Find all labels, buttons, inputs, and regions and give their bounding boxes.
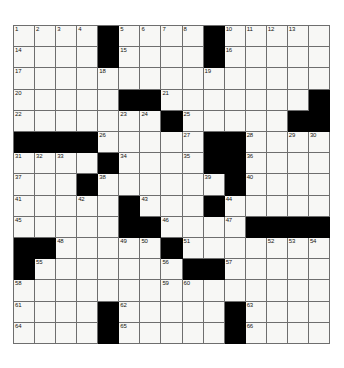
grid-cell[interactable] <box>309 26 330 47</box>
grid-cell[interactable] <box>119 259 140 280</box>
grid-cell[interactable] <box>56 68 77 89</box>
grid-cell[interactable]: 22 <box>14 111 35 132</box>
grid-cell[interactable] <box>288 174 309 195</box>
grid-cell[interactable] <box>35 68 56 89</box>
grid-cell[interactable] <box>309 259 330 280</box>
grid-cell[interactable] <box>35 217 56 238</box>
grid-cell[interactable] <box>204 90 225 111</box>
grid-cell[interactable] <box>204 302 225 323</box>
grid-cell[interactable]: 35 <box>183 153 204 174</box>
grid-cell[interactable] <box>225 280 246 301</box>
grid-cell[interactable] <box>77 302 98 323</box>
grid-cell[interactable] <box>56 47 77 68</box>
grid-cell[interactable] <box>225 111 246 132</box>
grid-cell[interactable] <box>246 90 267 111</box>
grid-cell[interactable] <box>267 68 288 89</box>
grid-cell[interactable] <box>204 217 225 238</box>
grid-cell[interactable] <box>77 153 98 174</box>
grid-cell[interactable]: 52 <box>267 238 288 259</box>
grid-cell[interactable] <box>119 68 140 89</box>
grid-cell[interactable] <box>140 47 161 68</box>
grid-cell[interactable] <box>77 238 98 259</box>
grid-cell[interactable] <box>98 90 119 111</box>
grid-cell[interactable] <box>267 323 288 344</box>
grid-cell[interactable] <box>119 280 140 301</box>
grid-cell[interactable] <box>183 302 204 323</box>
grid-cell[interactable] <box>267 302 288 323</box>
grid-cell[interactable]: 48 <box>56 238 77 259</box>
grid-cell[interactable]: 55 <box>35 259 56 280</box>
grid-cell[interactable]: 18 <box>98 68 119 89</box>
grid-cell[interactable] <box>161 153 182 174</box>
grid-cell[interactable] <box>56 90 77 111</box>
grid-cell[interactable] <box>246 259 267 280</box>
grid-cell[interactable] <box>56 302 77 323</box>
grid-cell[interactable] <box>140 153 161 174</box>
grid-cell[interactable] <box>267 132 288 153</box>
grid-cell[interactable] <box>77 90 98 111</box>
grid-cell[interactable]: 40 <box>246 174 267 195</box>
grid-cell[interactable] <box>246 238 267 259</box>
grid-cell[interactable] <box>35 47 56 68</box>
grid-cell[interactable] <box>161 47 182 68</box>
grid-cell[interactable] <box>98 111 119 132</box>
grid-cell[interactable]: 45 <box>14 217 35 238</box>
grid-cell[interactable] <box>98 259 119 280</box>
grid-cell[interactable] <box>309 302 330 323</box>
grid-cell[interactable] <box>288 259 309 280</box>
grid-cell[interactable] <box>267 196 288 217</box>
grid-cell[interactable] <box>246 280 267 301</box>
grid-cell[interactable]: 23 <box>119 111 140 132</box>
grid-cell[interactable] <box>35 302 56 323</box>
grid-cell[interactable]: 47 <box>225 217 246 238</box>
grid-cell[interactable]: 16 <box>225 47 246 68</box>
grid-cell[interactable] <box>56 196 77 217</box>
grid-cell[interactable]: 65 <box>119 323 140 344</box>
grid-cell[interactable] <box>183 47 204 68</box>
grid-cell[interactable] <box>77 68 98 89</box>
grid-cell[interactable]: 27 <box>183 132 204 153</box>
grid-cell[interactable]: 12 <box>267 26 288 47</box>
grid-cell[interactable] <box>161 68 182 89</box>
grid-cell[interactable] <box>288 196 309 217</box>
grid-cell[interactable] <box>77 217 98 238</box>
grid-cell[interactable] <box>246 196 267 217</box>
grid-cell[interactable] <box>119 132 140 153</box>
grid-cell[interactable] <box>56 174 77 195</box>
grid-cell[interactable] <box>140 132 161 153</box>
grid-cell[interactable]: 15 <box>119 47 140 68</box>
grid-cell[interactable]: 54 <box>309 238 330 259</box>
grid-cell[interactable] <box>98 217 119 238</box>
grid-cell[interactable] <box>309 196 330 217</box>
grid-cell[interactable]: 33 <box>56 153 77 174</box>
grid-cell[interactable] <box>225 68 246 89</box>
grid-cell[interactable]: 30 <box>309 132 330 153</box>
grid-cell[interactable] <box>225 90 246 111</box>
grid-cell[interactable] <box>204 111 225 132</box>
grid-cell[interactable] <box>267 259 288 280</box>
grid-cell[interactable]: 1 <box>14 26 35 47</box>
grid-cell[interactable] <box>140 174 161 195</box>
grid-cell[interactable]: 50 <box>140 238 161 259</box>
grid-cell[interactable] <box>288 153 309 174</box>
grid-cell[interactable]: 42 <box>77 196 98 217</box>
grid-cell[interactable]: 39 <box>204 174 225 195</box>
grid-cell[interactable] <box>56 323 77 344</box>
grid-cell[interactable] <box>56 111 77 132</box>
grid-cell[interactable]: 66 <box>246 323 267 344</box>
grid-cell[interactable] <box>98 238 119 259</box>
grid-cell[interactable]: 38 <box>98 174 119 195</box>
grid-cell[interactable]: 6 <box>140 26 161 47</box>
grid-cell[interactable]: 3 <box>56 26 77 47</box>
grid-cell[interactable] <box>288 323 309 344</box>
grid-cell[interactable] <box>77 111 98 132</box>
grid-cell[interactable] <box>183 90 204 111</box>
grid-cell[interactable] <box>246 47 267 68</box>
grid-cell[interactable] <box>98 196 119 217</box>
grid-cell[interactable] <box>56 280 77 301</box>
grid-cell[interactable]: 58 <box>14 280 35 301</box>
crossword-grid[interactable]: 1234567810111213141516171819202122232425… <box>13 25 330 344</box>
grid-cell[interactable]: 37 <box>14 174 35 195</box>
grid-cell[interactable] <box>140 259 161 280</box>
grid-cell[interactable] <box>77 259 98 280</box>
